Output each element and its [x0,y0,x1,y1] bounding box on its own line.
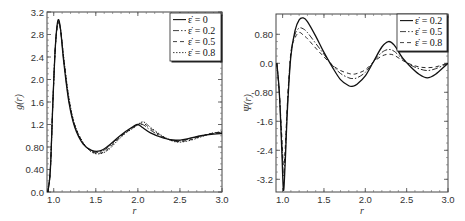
y-tick-label: 0.80 [26,142,45,153]
legend-entry: ε̇ = 0.5 [188,36,215,47]
x-axis-label: r [133,205,137,216]
y-tick-label: -2.4 [257,145,273,156]
legend-entry: ε̇ = 0.2 [415,15,442,26]
y-tick-label: 0.0 [31,187,44,198]
legend-entry: ε̇ = 0 [188,14,208,25]
x-tick-label: 2.5 [400,194,413,205]
x-tick-label: 3.0 [441,194,454,205]
y-tick-label: -1.6 [257,116,273,127]
y-tick-label: 2.0 [31,74,44,85]
y-axis-label: g(r) [13,94,25,110]
y-tick-label: 1.2 [31,119,44,130]
x-tick-label: 1.5 [89,194,102,205]
y-tick-label: 3.2 [31,7,44,18]
y-tick-label: 2.8 [31,29,44,40]
legend-entry: ε̇ = 0.8 [415,37,442,48]
y-axis-label: Ψ(r) [242,94,254,112]
x-tick-label: 3.0 [215,194,228,205]
psi-chart: 1.01.52.02.53.00.800.0-0.80-1.6-2.4-3.2r… [242,14,455,216]
y-tick-label: 1.6 [31,97,44,108]
x-axis-label: r [360,205,364,216]
y-tick-label: 0.80 [255,29,274,40]
y-tick-label: -0.80 [251,87,273,98]
x-tick-label: 2.0 [359,194,372,205]
x-tick-label: 2.5 [173,194,186,205]
x-tick-label: 1.5 [317,194,330,205]
legend-entry: ε̇ = 0.5 [415,26,442,37]
legend-entry: ε̇ = 0.2 [188,25,215,36]
y-tick-label: -3.2 [257,174,273,185]
x-tick-label: 2.0 [131,194,144,205]
y-tick-label: 0.40 [26,164,45,175]
y-tick-label: 2.4 [31,52,44,63]
gr-chart: 1.01.52.02.53.00.00.400.801.21.62.02.42.… [13,7,229,217]
figure: 1.01.52.02.53.00.00.400.801.21.62.02.42.… [0,0,465,221]
legend-entry: ε̇ = 0.8 [188,47,215,58]
x-tick-label: 1.0 [47,194,60,205]
y-tick-label: 0.0 [260,58,273,69]
x-tick-label: 1.0 [276,194,289,205]
